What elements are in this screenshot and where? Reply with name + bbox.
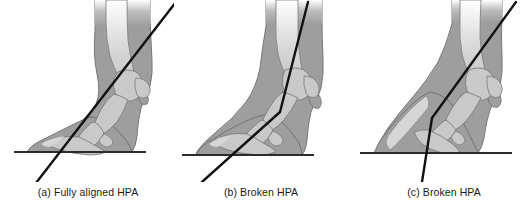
panel-c-caption: (c) Broken HPA [348,186,522,198]
panel-broken-hpa-c: (c) Broken HPA [348,0,522,220]
panel-fully-aligned-hpa: (a) Fully aligned HPA [0,0,174,220]
hpa-figure: (a) Fully aligned HPA [0,0,522,220]
panel-a-illustration [0,0,174,182]
panel-b-caption: (b) Broken HPA [174,186,348,198]
panel-a-caption: (a) Fully aligned HPA [0,186,174,198]
panel-broken-hpa-b: (b) Broken HPA [174,0,348,220]
panel-c-illustration [348,0,522,182]
panel-b-illustration [174,0,348,182]
